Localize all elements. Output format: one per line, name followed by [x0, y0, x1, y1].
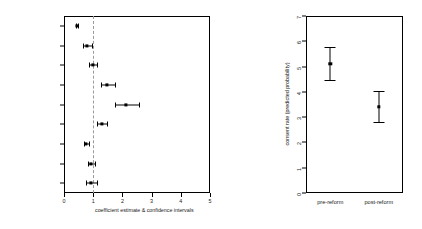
left-x-tick-label: 0	[63, 198, 66, 204]
ci-upper-cap	[92, 43, 93, 48]
point-estimate-marker	[89, 182, 92, 185]
left-x-axis-title: coefficient estimate & confidence interv…	[95, 207, 194, 213]
right-y-axis-title: consent rate (predicted probability)	[284, 63, 290, 146]
right-y-tick-label: 7	[296, 16, 302, 19]
right-category-label: pre-reform	[317, 199, 343, 205]
predicted-probability-panel: consent rate (predicted probability) 012…	[211, 0, 422, 229]
reference-line-at-one	[93, 16, 94, 193]
left-category-tick	[60, 65, 64, 66]
left-category-tick	[60, 84, 64, 85]
left-category-tick	[60, 163, 64, 164]
right-y-tick	[302, 66, 306, 67]
right-y-tick	[302, 142, 306, 143]
right-category-label: post-reform	[364, 199, 393, 205]
right-y-tick	[302, 193, 306, 194]
ci-upper-cap	[89, 141, 90, 146]
right-plot-frame	[306, 16, 403, 193]
ci-upper-cap	[97, 63, 98, 68]
ci-upper-cap	[139, 102, 140, 107]
left-category-tick	[60, 143, 64, 144]
right-y-tick-label: 3	[296, 117, 302, 120]
point-estimate-marker	[329, 62, 332, 65]
ci-upper-cap	[78, 23, 79, 28]
left-x-tick-label: 3	[150, 198, 153, 204]
left-category-tick	[60, 104, 64, 105]
point-estimate-marker	[75, 24, 78, 27]
ci-lower-cap	[89, 63, 90, 68]
left-x-tick	[152, 193, 153, 197]
ci-lower-cap	[373, 122, 384, 123]
point-estimate-marker	[90, 162, 93, 165]
point-estimate-marker	[377, 105, 380, 108]
ci-lower-cap	[101, 82, 102, 87]
point-estimate-marker	[91, 64, 94, 67]
ci-upper-cap	[107, 122, 108, 127]
ci-lower-cap	[86, 181, 87, 186]
ci-upper-cap	[325, 47, 336, 48]
left-x-tick-label: 2	[121, 198, 124, 204]
right-y-tick-label: 4	[296, 92, 302, 95]
left-x-tick-label: 4	[179, 198, 182, 204]
figure-container: ReformOpposition control of BRMixed cont…	[0, 0, 422, 229]
right-y-tick	[302, 117, 306, 118]
right-y-tick-label: 2	[296, 142, 302, 145]
ci-lower-cap	[115, 102, 116, 107]
left-category-tick	[60, 45, 64, 46]
left-x-tick	[181, 193, 182, 197]
point-estimate-marker	[85, 142, 88, 145]
left-x-tick	[122, 193, 123, 197]
point-estimate-marker	[105, 83, 108, 86]
point-estimate-marker	[101, 123, 104, 126]
right-y-tick	[302, 167, 306, 168]
left-category-tick	[60, 183, 64, 184]
right-y-tick	[302, 16, 306, 17]
coefficient-plot-panel: ReformOpposition control of BRMixed cont…	[0, 0, 211, 229]
ci-upper-cap	[115, 82, 116, 87]
left-category-tick	[60, 124, 64, 125]
left-x-tick-label: 1	[92, 198, 95, 204]
point-estimate-marker	[125, 103, 128, 106]
ci-lower-cap	[325, 80, 336, 81]
right-y-tick-label: 0	[296, 193, 302, 196]
right-y-tick	[302, 41, 306, 42]
right-y-tick	[302, 91, 306, 92]
ci-upper-cap	[95, 161, 96, 166]
ci-upper-cap	[97, 181, 98, 186]
right-y-tick-label: 5	[296, 67, 302, 70]
ci-upper-cap	[373, 91, 384, 92]
point-estimate-marker	[85, 44, 88, 47]
ci-lower-cap	[97, 122, 98, 127]
left-category-tick	[60, 25, 64, 26]
ci-lower-cap	[83, 43, 84, 48]
left-x-tick	[93, 193, 94, 197]
left-x-tick	[64, 193, 65, 197]
right-y-tick-label: 1	[296, 168, 302, 171]
right-y-tick-label: 6	[296, 41, 302, 44]
